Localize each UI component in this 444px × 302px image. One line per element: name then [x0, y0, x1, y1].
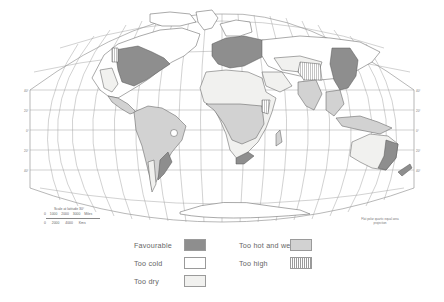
legend-label-too-dry: Too dry	[134, 277, 159, 286]
svg-text:0°: 0°	[26, 129, 30, 133]
legend-swatch-too-high	[290, 257, 312, 269]
scale-title: Scale at latitude 30°	[54, 208, 84, 211]
asia	[262, 36, 392, 134]
legend-label-too-high: Too high	[239, 259, 268, 268]
svg-text:20°: 20°	[24, 149, 29, 153]
legend-label-too-cold: Too cold	[134, 259, 162, 268]
scale-bar: Scale at latitude 30° 0 1000 2000 3000 M…	[44, 208, 108, 232]
svg-text:20°: 20°	[24, 109, 29, 113]
svg-text:40°: 40°	[24, 89, 29, 93]
south-america	[134, 106, 186, 192]
legend-swatch-too-dry	[184, 275, 206, 287]
world-map: 40° 20° 0° 20° 40° 40° 20° 0° 20° 40°	[0, 0, 444, 230]
legend-label-too-hot-and-wet: Too hot and wet	[239, 241, 293, 250]
legend-swatch-too-cold	[184, 257, 206, 269]
projection-note: Flat polar quartic equal area projection	[360, 218, 400, 225]
greenland	[196, 10, 218, 30]
north-america	[92, 12, 200, 114]
legend-swatch-favourable	[184, 239, 206, 251]
svg-text:20°: 20°	[416, 149, 421, 153]
svg-text:0°: 0°	[416, 129, 420, 133]
svg-text:40°: 40°	[416, 89, 421, 93]
scale-kms: 0 2000 4000 Kms	[44, 222, 86, 225]
legend-label-favourable: Favourable	[134, 241, 172, 250]
svg-text:40°: 40°	[416, 169, 421, 173]
svg-text:20°: 20°	[416, 109, 421, 113]
svg-text:40°: 40°	[24, 169, 29, 173]
scale-line	[46, 218, 100, 219]
legend-swatch-too-hot-and-wet	[290, 239, 312, 251]
antarctica	[180, 202, 310, 218]
scale-miles: 0 1000 2000 3000 Miles	[44, 213, 92, 216]
